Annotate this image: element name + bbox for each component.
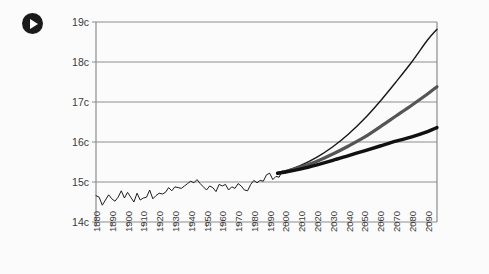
xtick-label-2080: 2080	[407, 211, 418, 232]
series-observed-temperature	[96, 171, 285, 205]
tickmarks-group	[92, 22, 428, 227]
gridlines-group	[96, 22, 437, 182]
xtick-label-2000: 2000	[280, 211, 291, 232]
xtick-label-1960: 1960	[217, 211, 228, 232]
series-mid-projection	[278, 87, 437, 173]
xtick-label-1910: 1910	[138, 211, 149, 232]
xtick-label-1930: 1930	[170, 211, 181, 232]
xtick-label-1980: 1980	[249, 211, 260, 232]
xtick-label-1970: 1970	[233, 211, 244, 232]
xtick-label-2030: 2030	[328, 211, 339, 232]
ytick-label-14c: 14c	[72, 216, 89, 228]
y-axis-labels-group: 14c15c16c17c18c19c	[72, 16, 89, 228]
xtick-label-1890: 1890	[107, 211, 118, 232]
xtick-label-1920: 1920	[154, 211, 165, 232]
xtick-label-2020: 2020	[312, 211, 323, 232]
xtick-label-2090: 2090	[423, 211, 434, 232]
ytick-label-19c: 19c	[72, 16, 89, 28]
chart-figure: 14c15c16c17c18c19c 188018901900191019201…	[0, 0, 489, 274]
xtick-label-2070: 2070	[391, 211, 402, 232]
xtick-label-1880: 1880	[91, 211, 102, 232]
ytick-label-15c: 15c	[72, 176, 89, 188]
ytick-label-17c: 17c	[72, 96, 89, 108]
ytick-label-16c: 16c	[72, 136, 89, 148]
xtick-label-1900: 1900	[123, 211, 134, 232]
xtick-label-1940: 1940	[186, 211, 197, 232]
xtick-label-1990: 1990	[265, 211, 276, 232]
temperature-projection-chart: 14c15c16c17c18c19c 188018901900191019201…	[0, 0, 489, 274]
xtick-label-2060: 2060	[375, 211, 386, 232]
data-series-group	[96, 29, 437, 205]
xtick-label-1950: 1950	[202, 211, 213, 232]
xtick-label-2050: 2050	[359, 211, 370, 232]
ytick-label-18c: 18c	[72, 56, 89, 68]
xtick-label-2040: 2040	[344, 211, 355, 232]
xtick-label-2010: 2010	[296, 211, 307, 232]
